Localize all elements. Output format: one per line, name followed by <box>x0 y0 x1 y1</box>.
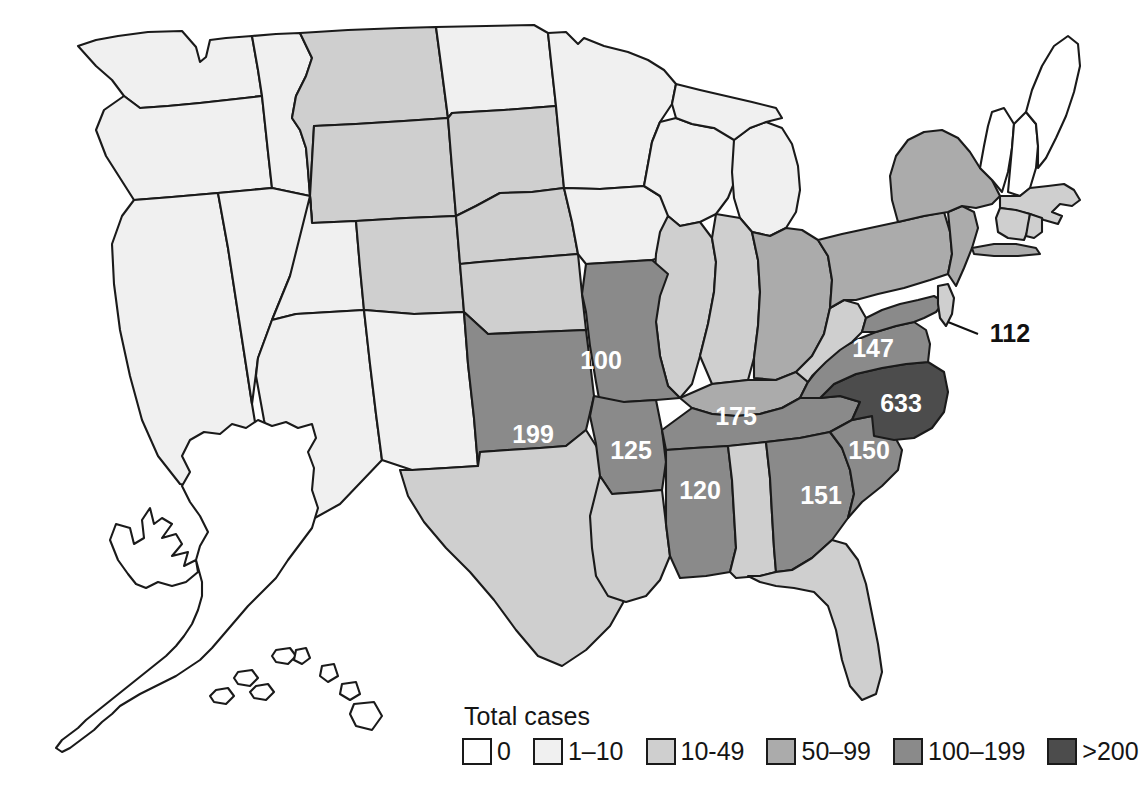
state-PA[interactable] <box>818 212 952 308</box>
state-HI-2[interactable] <box>320 664 338 682</box>
state-HI-1[interactable] <box>294 648 310 664</box>
state-HI-3[interactable] <box>340 682 360 700</box>
state-NY-long-island[interactable] <box>972 244 1040 256</box>
state-HI-4[interactable] <box>350 702 382 730</box>
legend-label-5: >200 <box>1082 739 1138 764</box>
legend-swatch-3 <box>766 738 796 765</box>
state-CO[interactable] <box>356 216 464 314</box>
state-WA[interactable] <box>78 31 262 108</box>
legend-swatch-4 <box>893 738 923 765</box>
state-MS[interactable] <box>666 446 736 578</box>
alaska-island-1 <box>272 648 296 664</box>
map-label-GA: 151 <box>800 481 842 509</box>
map-label-NC: 633 <box>880 389 922 417</box>
legend: Total cases 0 1–10 10-49 50–99 100–199 <box>462 704 1082 794</box>
state-MI[interactable] <box>732 122 800 236</box>
state-WY[interactable] <box>310 118 456 223</box>
legend-label-0: 0 <box>497 739 511 764</box>
legend-item-2[interactable]: 10-49 <box>646 738 745 765</box>
map-label-VA: 147 <box>852 334 894 362</box>
legend-items: 0 1–10 10-49 50–99 100–199 >200 <box>462 738 1082 765</box>
legend-swatch-5 <box>1047 738 1077 765</box>
map-label-AR: 125 <box>610 436 652 464</box>
state-KS[interactable] <box>460 254 586 334</box>
state-DE[interactable] <box>938 284 954 326</box>
map-label-MO: 100 <box>580 346 622 374</box>
alaska-island-3 <box>250 684 274 700</box>
legend-label-3: 50–99 <box>801 739 871 764</box>
legend-label-2: 10-49 <box>681 739 745 764</box>
legend-item-4[interactable]: 100–199 <box>893 738 1025 765</box>
legend-item-3[interactable]: 50–99 <box>766 738 871 765</box>
state-NJ[interactable] <box>948 206 978 286</box>
map-label-MS: 120 <box>679 476 721 504</box>
legend-item-1[interactable]: 1–10 <box>533 738 624 765</box>
legend-swatch-2 <box>646 738 676 765</box>
legend-label-1: 1–10 <box>568 739 624 764</box>
legend-label-4: 100–199 <box>928 739 1025 764</box>
map-label-MD: 112 <box>990 319 1030 347</box>
legend-swatch-1 <box>533 738 563 765</box>
alaska-island-2 <box>234 670 258 686</box>
state-RI[interactable] <box>1026 214 1042 238</box>
map-label-TN: 175 <box>715 402 757 430</box>
state-CT[interactable] <box>996 208 1030 240</box>
map-label-SC: 150 <box>848 436 890 464</box>
legend-item-5[interactable]: >200 <box>1047 738 1138 765</box>
state-LA[interactable] <box>590 476 670 602</box>
caption-strip <box>0 788 1089 802</box>
state-NM[interactable] <box>364 310 478 470</box>
map-label-OK: 199 <box>512 420 554 448</box>
leader-line-MD <box>948 322 978 334</box>
legend-title: Total cases <box>464 704 1082 729</box>
legend-swatch-0 <box>462 738 492 765</box>
state-ND[interactable] <box>436 25 556 118</box>
legend-item-0[interactable]: 0 <box>462 738 511 765</box>
state-OR[interactable] <box>96 96 272 200</box>
alaska-island-4 <box>210 688 234 704</box>
